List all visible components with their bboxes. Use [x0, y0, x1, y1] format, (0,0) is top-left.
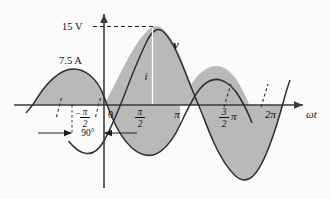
waveform-figure: 15 V 7.5 A 0 − π 2 π 2 π 3 2 π 2π [0, 0, 330, 199]
half-pi-denominator: 2 [138, 119, 143, 129]
current-curve-label: i [144, 70, 147, 82]
y-axis-arrowhead [100, 14, 108, 23]
voltage-fill-region-positive [104, 26, 199, 105]
three-half-pi-symbol: π [231, 110, 237, 122]
minus-half-pi-numerator: π [83, 107, 88, 117]
origin-label: 0 [108, 109, 113, 120]
tick-label-two-pi: 2π [265, 108, 277, 120]
tick-label-pi: π [174, 108, 180, 120]
x-axis-label: ωt [306, 108, 318, 120]
current-fill-region [33, 69, 104, 105]
half-pi-numerator: π [138, 107, 143, 117]
tick-label-minus-half-pi: − π 2 [75, 107, 90, 129]
phase-dim-arrow-left [64, 130, 72, 136]
zero-crossing-tick-2pi [261, 84, 268, 107]
x-axis-arrowhead [294, 101, 303, 109]
phase-dim-arrow-right [104, 130, 112, 136]
three-half-pi-numerator: 3 [221, 107, 227, 117]
voltage-peak-label: 15 V [62, 21, 83, 32]
current-peak-label: 7.5 A [59, 55, 82, 66]
waveform-svg: 15 V 7.5 A 0 − π 2 π 2 π 3 2 π 2π [0, 0, 330, 199]
phase-shift-label: 90° [81, 128, 95, 138]
voltage-curve-label: v [173, 38, 179, 52]
three-half-pi-denominator: 2 [222, 119, 227, 129]
